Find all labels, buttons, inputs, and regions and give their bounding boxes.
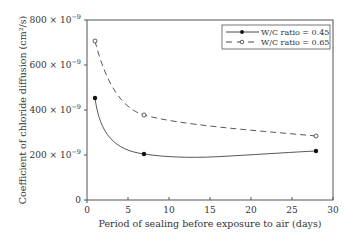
filled-circle-marker (142, 152, 146, 156)
x-tick-label: 5 (125, 205, 131, 215)
x-axis-title: Period of sealing before exposure to air… (99, 218, 322, 229)
x-tick-label: 30 (327, 205, 339, 215)
chart: 0 5 10 15 20 25 30 0 200 × 10−9 400 × 10… (0, 0, 351, 240)
legend-label-045: W/C ratio = 0.45 (261, 28, 329, 37)
x-tick-label: 20 (245, 205, 257, 215)
filled-circle-marker (314, 149, 318, 153)
x-tick-labels: 0 5 10 15 20 25 30 (84, 205, 339, 215)
filled-circle-marker (93, 96, 97, 100)
legend-filled-circle-icon (240, 30, 244, 34)
legend-open-circle-icon (240, 40, 244, 44)
open-circle-marker (93, 39, 97, 43)
open-circle-marker (314, 134, 318, 138)
series-wc-065-markers (93, 39, 318, 138)
open-circle-marker (142, 113, 146, 117)
legend-label-065: W/C ratio = 0.65 (261, 38, 329, 47)
y-tick-label-600: 600 × 10−9 (29, 58, 81, 70)
y-axis-title: Coefficient of chloride diffusion (cm²/s… (17, 16, 28, 204)
y-tick-labels: 0 200 × 10−9 400 × 10−9 600 × 10−9 800 ×… (29, 13, 81, 205)
y-tick-label-800: 800 × 10−9 (29, 13, 81, 25)
x-tick-label: 0 (84, 205, 90, 215)
x-tick-label: 15 (204, 205, 216, 215)
x-tick-label: 10 (163, 205, 175, 215)
y-tick-label-200: 200 × 10−9 (29, 148, 81, 160)
x-tick-label: 25 (286, 205, 298, 215)
y-tick-label-0: 0 (75, 195, 81, 205)
series-wc-065-line (95, 41, 316, 136)
legend: W/C ratio = 0.45 W/C ratio = 0.65 (222, 25, 330, 49)
y-tick-label-400: 400 × 10−9 (29, 103, 81, 115)
